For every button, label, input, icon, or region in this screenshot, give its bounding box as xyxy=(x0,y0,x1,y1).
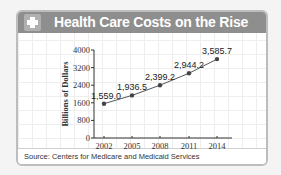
x-tick-label: 2005 xyxy=(124,141,141,151)
y-tick-label: 2400 xyxy=(73,80,90,90)
data-label: 3,585.7 xyxy=(202,46,232,56)
data-point xyxy=(215,57,219,61)
data-label: 1,936.5 xyxy=(117,82,147,92)
data-label: 2,399.2 xyxy=(145,72,175,82)
data-label: 2,944.2 xyxy=(174,60,204,70)
x-tick-label: 2002 xyxy=(96,141,113,151)
x-tick-label: 2011 xyxy=(181,141,198,151)
y-tick-label: 3200 xyxy=(73,63,90,73)
y-tick-label: 0 xyxy=(86,133,90,143)
data-point xyxy=(187,71,191,75)
y-tick-label: 1600 xyxy=(73,98,90,108)
line-chart: 08001600240032004000Billions of Dollars2… xyxy=(0,0,281,175)
data-point xyxy=(102,102,106,106)
x-tick-label: 2014 xyxy=(209,141,227,151)
data-point xyxy=(130,93,134,97)
data-point xyxy=(158,83,162,87)
y-tick-label: 800 xyxy=(77,115,90,125)
x-tick-label: 2008 xyxy=(152,141,169,151)
y-tick-label: 4000 xyxy=(73,45,90,55)
y-axis-label: Billions of Dollars xyxy=(60,61,70,127)
